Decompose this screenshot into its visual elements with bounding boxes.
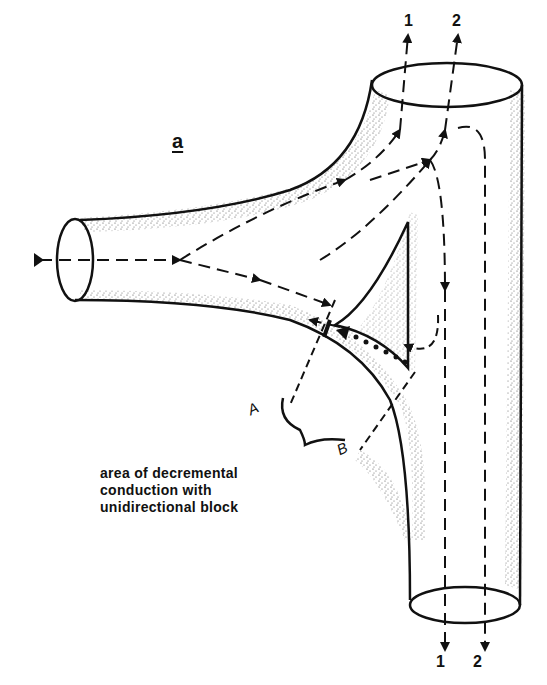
brace: [282, 398, 345, 445]
bottom-label-1: 1: [436, 653, 445, 671]
conduction-paths: [40, 35, 485, 650]
caption-line: conduction with: [100, 482, 238, 499]
bottom-label-2: 2: [473, 653, 482, 671]
caption-line: unidirectional block: [100, 499, 238, 516]
entry-arrow-icon: [34, 253, 44, 267]
caption-line: area of decremental: [100, 465, 238, 482]
figure-caption: area of decremental conduction with unid…: [100, 465, 238, 516]
panel-label: a: [172, 130, 183, 153]
fiber-branch-diagram: [0, 0, 547, 685]
tube-outline: [57, 63, 522, 623]
top-label-1: 1: [404, 12, 413, 30]
top-label-2: 2: [452, 12, 461, 30]
